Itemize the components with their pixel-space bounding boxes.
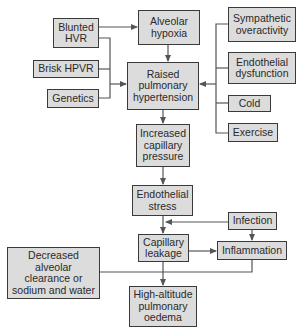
node-brisk-hpvr: Brisk HPVR: [33, 60, 99, 78]
node-blunted-hvr: Blunted HVR: [53, 18, 99, 48]
node-exercise: Exercise: [228, 123, 278, 142]
node-endothelial-dysfunction: Endothelial dysfunction: [228, 52, 296, 84]
node-inflammation: Inflammation: [217, 241, 287, 260]
node-decreased-alveolar-clearance: Decreased alveolar clearance or sodium a…: [7, 247, 100, 299]
node-increased-capillary-pressure: Increased capillary pressure: [136, 124, 190, 167]
node-cold: Cold: [228, 95, 271, 112]
node-raised-pulmonary-hypertension: Raised pulmonary hypertension: [127, 62, 199, 110]
node-high-altitude-pulmonary-oedema: High-altitude pulmonary oedema: [129, 286, 197, 327]
node-sympathetic-overactivity: Sympathetic overactivity: [228, 7, 296, 42]
node-infection: Infection: [228, 212, 277, 230]
node-genetics: Genetics: [47, 89, 99, 108]
node-capillary-leakage: Capillary leakage: [138, 234, 189, 262]
node-endothelial-stress: Endothelial stress: [132, 185, 193, 216]
node-alveolar-hypoxia: Alveolar hypoxia: [138, 10, 200, 45]
